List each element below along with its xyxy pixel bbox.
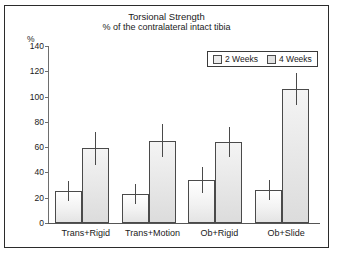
x-axis-label: Ob+Slide [243,228,329,238]
error-bar-cap [225,142,234,143]
plot-area: 020406080100120140 Trans+RigidTrans+Moti… [48,46,320,224]
y-axis-tick-mark [45,147,48,148]
bar-group [255,46,317,223]
y-axis-tick-mark [45,71,48,72]
chart-frame: Torsional Strength % of the contralatera… [4,5,329,248]
y-axis-tick-mark [45,122,48,123]
chart-subtitle: % of the contralateral intact tibia [5,22,328,33]
y-axis-tick-label: 0 [39,218,44,228]
error-bar-cap [292,89,301,90]
y-axis-tick-mark [45,46,48,47]
title-block: Torsional Strength % of the contralatera… [5,11,328,33]
y-axis-tick-mark [45,198,48,199]
chart-title: Torsional Strength [5,11,328,22]
error-bar-cap [265,190,274,191]
error-bar-cap [91,148,100,149]
bar-4-weeks [282,89,309,223]
y-axis-tick-mark [45,223,48,224]
y-axis-tick-mark [45,97,48,98]
y-axis-tick-label: 120 [30,66,44,76]
y-axis-tick-mark [45,172,48,173]
y-axis-tick-label: 20 [35,193,44,203]
y-axis-tick-label: 80 [35,117,44,127]
x-axis-line [48,223,320,224]
y-axis-tick-label: 100 [30,92,44,102]
error-bar-cap [64,191,73,192]
bar-group [55,46,117,223]
y-axis-tick-label: 140 [30,41,44,51]
bar-group [122,46,184,223]
y-axis-tick-label: 40 [35,167,44,177]
bar-group [188,46,250,223]
y-axis-line [48,46,49,224]
error-bar-cap [198,180,207,181]
y-axis-tick-label: 60 [35,142,44,152]
error-bar-cap [131,194,140,195]
error-bar-cap [158,141,167,142]
